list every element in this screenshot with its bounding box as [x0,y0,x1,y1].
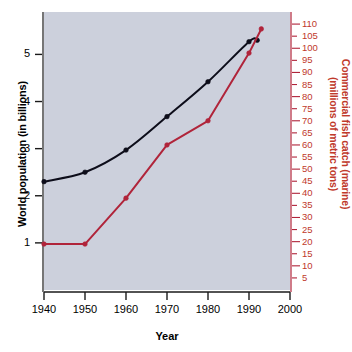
right-tick-label-85: 85 [302,79,313,90]
right-tick-label-105: 105 [302,30,318,41]
x-tick-label-1990: 1990 [229,303,269,315]
left-axis-ticks [35,54,42,242]
right-tick-label-20: 20 [302,236,313,247]
right-tick-label-55: 55 [302,151,313,162]
x-tick-label-1940: 1940 [24,303,64,315]
right-tick-label-60: 60 [302,139,313,150]
left-tick-label-4: 4 [10,95,30,107]
right-tick-label-15: 15 [302,248,313,259]
right-tick-label-95: 95 [302,54,313,65]
left-tick-label-5: 5 [10,47,30,59]
x-axis-ticks [44,292,290,300]
right-tick-label-45: 45 [302,175,313,186]
right-axis-ticks [292,24,300,278]
right-axis-title-line1: Commercial fish catch (marine) [340,59,352,209]
right-tick-label-90: 90 [302,66,313,77]
right-tick-label-40: 40 [302,187,313,198]
right-tick-label-80: 80 [302,91,313,102]
right-tick-label-25: 25 [302,224,313,235]
left-tick-label-2: 2 [10,189,30,201]
right-tick-label-75: 75 [302,103,313,114]
right-axis-title: Commercial fish catch (marine) (millions… [328,39,352,229]
x-tick-label-1960: 1960 [106,303,146,315]
right-tick-label-65: 65 [302,127,313,138]
left-tick-label-3: 3 [10,142,30,154]
right-tick-label-50: 50 [302,163,313,174]
left-axis-title: World population (in billions) [16,54,28,254]
right-tick-label-30: 30 [302,211,313,222]
right-tick-label-5: 5 [302,272,307,283]
x-axis-title: Year [44,330,290,342]
right-tick-label-10: 10 [302,260,313,271]
right-tick-label-110: 110 [302,18,317,29]
x-tick-label-1980: 1980 [188,303,228,315]
x-tick-label-2000: 2000 [270,303,310,315]
plot-area [44,12,290,290]
x-tick-label-1950: 1950 [65,303,105,315]
right-tick-label-35: 35 [302,199,313,210]
right-axis-title-line2: (millions of metric tons) [328,77,340,191]
x-tick-label-1970: 1970 [147,303,187,315]
right-tick-label-70: 70 [302,115,313,126]
right-tick-label-100: 100 [302,42,318,53]
left-tick-label-1: 1 [10,236,30,248]
